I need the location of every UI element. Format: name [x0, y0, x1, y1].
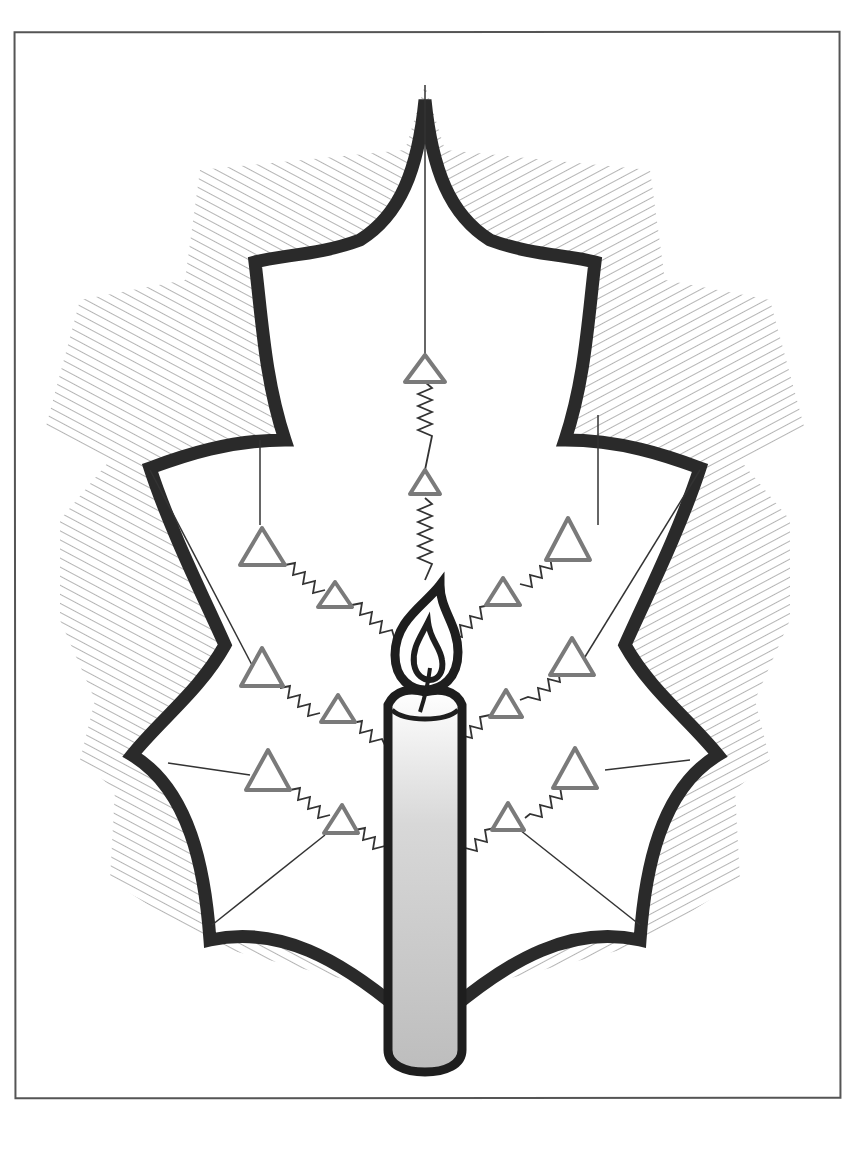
holly-candle-illustration: [0, 0, 851, 1155]
candle: [388, 690, 462, 1072]
candle-body: [388, 690, 462, 1072]
